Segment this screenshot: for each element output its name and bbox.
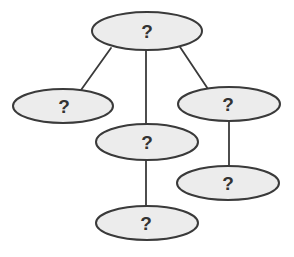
node-middle: ? xyxy=(96,124,198,160)
node-middle-label: ? xyxy=(141,132,153,153)
node-left: ? xyxy=(13,89,113,123)
node-right: ? xyxy=(178,87,280,121)
edge-root-left xyxy=(81,48,111,90)
node-root-label: ? xyxy=(141,21,153,42)
tree-diagram: ? ? ? ? ? ? xyxy=(0,0,294,257)
edge-root-right xyxy=(180,47,208,89)
node-right-child-label: ? xyxy=(222,173,234,194)
node-middle-child-label: ? xyxy=(140,213,152,234)
node-left-label: ? xyxy=(58,96,70,117)
node-middle-child: ? xyxy=(96,206,198,240)
node-right-label: ? xyxy=(222,94,234,115)
node-right-child: ? xyxy=(177,166,279,200)
node-root: ? xyxy=(92,12,202,50)
